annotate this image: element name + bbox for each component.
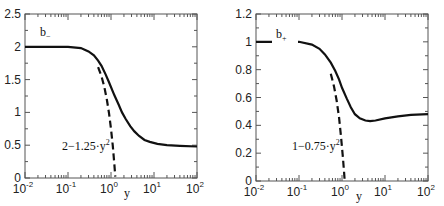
y-tick-label: 1.5 bbox=[4, 73, 21, 87]
y-tick-label: 2.5 bbox=[4, 7, 21, 21]
left-chart-panel: 2.521.510.50 10-210-1100101102 b− 2−1.25… bbox=[4, 7, 204, 200]
x-tick-label: 101 bbox=[374, 183, 392, 199]
right-x-axis-label: y bbox=[356, 189, 362, 203]
x-tick-label: 10-2 bbox=[13, 180, 34, 196]
figure: 2.521.510.50 10-210-1100101102 b− 2−1.25… bbox=[0, 0, 444, 206]
y-tick-label: 0.2 bbox=[235, 146, 252, 160]
left-curve-label: b− bbox=[40, 25, 51, 41]
x-tick-label: 101 bbox=[143, 180, 161, 196]
x-tick-label: 100 bbox=[331, 183, 349, 199]
x-tick-label: 100 bbox=[100, 180, 118, 196]
x-tick-label: 10-1 bbox=[287, 183, 308, 199]
x-tick-label: 10-1 bbox=[56, 180, 77, 196]
y-tick-label: 0.8 bbox=[235, 63, 252, 77]
right-curve-label: b+ bbox=[276, 27, 287, 43]
x-tick-label: 10-2 bbox=[244, 183, 265, 199]
right-annotation: 1−0.75·y2 bbox=[292, 138, 340, 153]
y-tick-label: 0.5 bbox=[4, 138, 21, 152]
y-tick-label: 1.2 bbox=[235, 7, 252, 21]
approx-2-minus-1.25y2-curve bbox=[98, 67, 115, 177]
left-x-axis-label: y bbox=[124, 186, 130, 200]
right-y-axis: 1.210.80.60.40.20 bbox=[235, 7, 428, 188]
b-minus-curve bbox=[25, 47, 197, 147]
right-chart-panel: 1.210.80.60.40.20 10-210-1100101102 b+ 1… bbox=[235, 7, 435, 203]
y-tick-label: 2 bbox=[14, 40, 21, 54]
x-tick-label: 102 bbox=[417, 183, 435, 199]
y-tick-label: 1 bbox=[245, 35, 252, 49]
left-plot-frame bbox=[25, 14, 197, 178]
y-tick-label: 0.6 bbox=[235, 91, 252, 105]
x-tick-label: 102 bbox=[186, 180, 204, 196]
y-tick-label: 1 bbox=[14, 105, 21, 119]
b-plus-curve bbox=[256, 42, 428, 121]
y-tick-label: 0.4 bbox=[235, 118, 252, 132]
left-annotation: 2−1.25·y2 bbox=[62, 138, 110, 153]
left-y-axis: 2.521.510.50 bbox=[4, 7, 197, 185]
